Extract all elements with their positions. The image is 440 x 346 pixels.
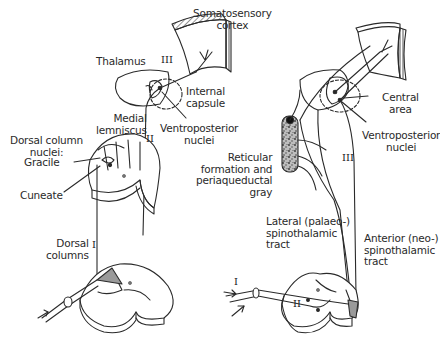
label-dorsal-columns: Dorsal columns: [46, 238, 89, 261]
neuron-order-II-right: II: [293, 298, 301, 309]
label-lateral-spinothalamic: Lateral (palaeo-) spinothalamic tract: [266, 216, 350, 251]
pathway-diagram: Somatosensory cortex Thalamus Internal c…: [0, 0, 440, 346]
label-anterior-spinothalamic: Anterior (neo-) spinothalamic tract: [364, 233, 438, 268]
neuron-order-I-right: I: [234, 276, 238, 287]
label-internal-capsule: Internal capsule: [186, 86, 225, 109]
label-reticular-formation: Reticular formation and periaqueductal g…: [196, 152, 272, 198]
label-central-area: Central area: [382, 92, 419, 115]
label-dorsal-column-nuclei: Dorsal column nuclei:: [10, 135, 83, 158]
label-ventroposterior-left: Ventroposterior nuclei: [160, 123, 238, 146]
neuron-order-III-right: III: [342, 152, 354, 163]
label-text: Somatosensory cortex: [193, 8, 272, 31]
label-medial-lemniscus: Medial lemniscus: [96, 113, 147, 136]
label-thalamus: Thalamus: [96, 56, 146, 68]
label-cuneate: Cuneate: [20, 190, 63, 202]
label-ventroposterior-right: Ventroposterior nuclei: [362, 130, 440, 153]
neuron-order-III-left: III: [161, 54, 173, 65]
neuron-order-I-left: I: [92, 239, 96, 250]
label-somatosensory-cortex: Somatosensory cortex: [193, 8, 272, 31]
label-gracile: Gracile: [24, 157, 60, 169]
neuron-order-II-left: II: [146, 133, 154, 144]
